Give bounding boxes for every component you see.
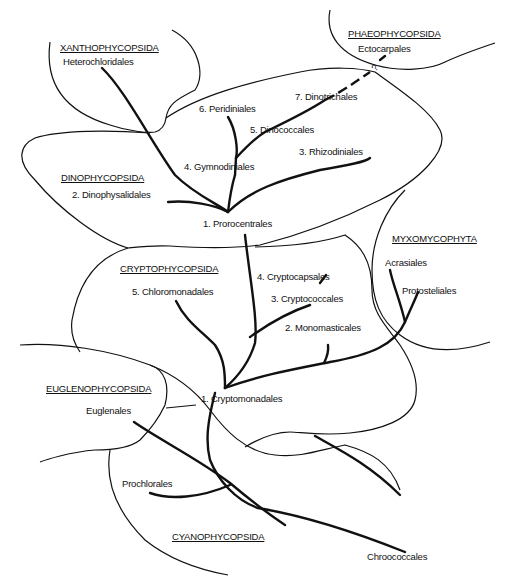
order-label-monomasticales: 2. Monomasticales — [285, 322, 361, 333]
order-label-dinococcales: 5. Dinococcales — [250, 124, 314, 135]
order-label-rhizodiniales: 3. Rhizodiniales — [299, 146, 363, 157]
order-label-prochlorales: Prochlorales — [122, 478, 172, 489]
order-label-chloromonadales: 5. Chloromonadales — [132, 286, 213, 297]
order-label-gymnodiniales: 4. Gymnodiniales — [184, 161, 254, 172]
order-label-heterochloridales: Heterochloridales — [63, 56, 134, 67]
order-label-protosteliales: Protosteliales — [402, 285, 456, 296]
phylogeny-diagram: XANTHOPHYCOPSIDA Heterochloridales PHAEO… — [0, 0, 512, 586]
group-label-phaeophycopsida: PHAEOPHYCOPSIDA — [348, 28, 441, 39]
order-label-dinophysalidales: 2. Dinophysalidales — [72, 189, 151, 200]
group-label-cyanophycopsida: CYANOPHYCOPSIDA — [172, 531, 264, 542]
phaeophycopsida-boundary — [329, 10, 495, 69]
group-label-euglenophycopsida: EUGLENOPHYCOPSIDA — [46, 383, 151, 394]
order-label-euglenales: Euglenales — [86, 405, 131, 416]
order-label-chroococcales: Chroococcales — [367, 551, 427, 562]
order-label-cryptococcales: 3. Cryptococcales — [271, 293, 343, 304]
group-label-xanthophycopsida: XANTHOPHYCOPSIDA — [60, 42, 159, 53]
order-label-prorocentrales: 1. Prorocentrales — [203, 218, 272, 229]
group-label-cryptophycopsida: CRYPTOPHYCOPSIDA — [120, 263, 218, 274]
order-label-acrasiales: Acrasiales — [385, 257, 427, 268]
order-label-peridiniales: 6. Peridiniales — [199, 103, 256, 114]
order-label-cryptocapsales: 4. Cryptocapsales — [257, 271, 330, 282]
order-label-cryptomonadales: 1. Cryptomonadales — [201, 393, 282, 404]
euglenophycopsida-boundary — [20, 344, 167, 462]
order-label-dinotrichales: 7. Dinotrichales — [295, 91, 357, 102]
group-label-dinophycopsida: DINOPHYCOPSIDA — [61, 172, 144, 183]
order-label-ectocarpales: Ectocarpales — [358, 43, 411, 54]
group-label-myxomycophyta: MYXOMYCOPHYTA — [392, 233, 477, 244]
euglenophycopsida-connector — [166, 405, 196, 408]
cyano-upper-boundary — [150, 365, 400, 490]
